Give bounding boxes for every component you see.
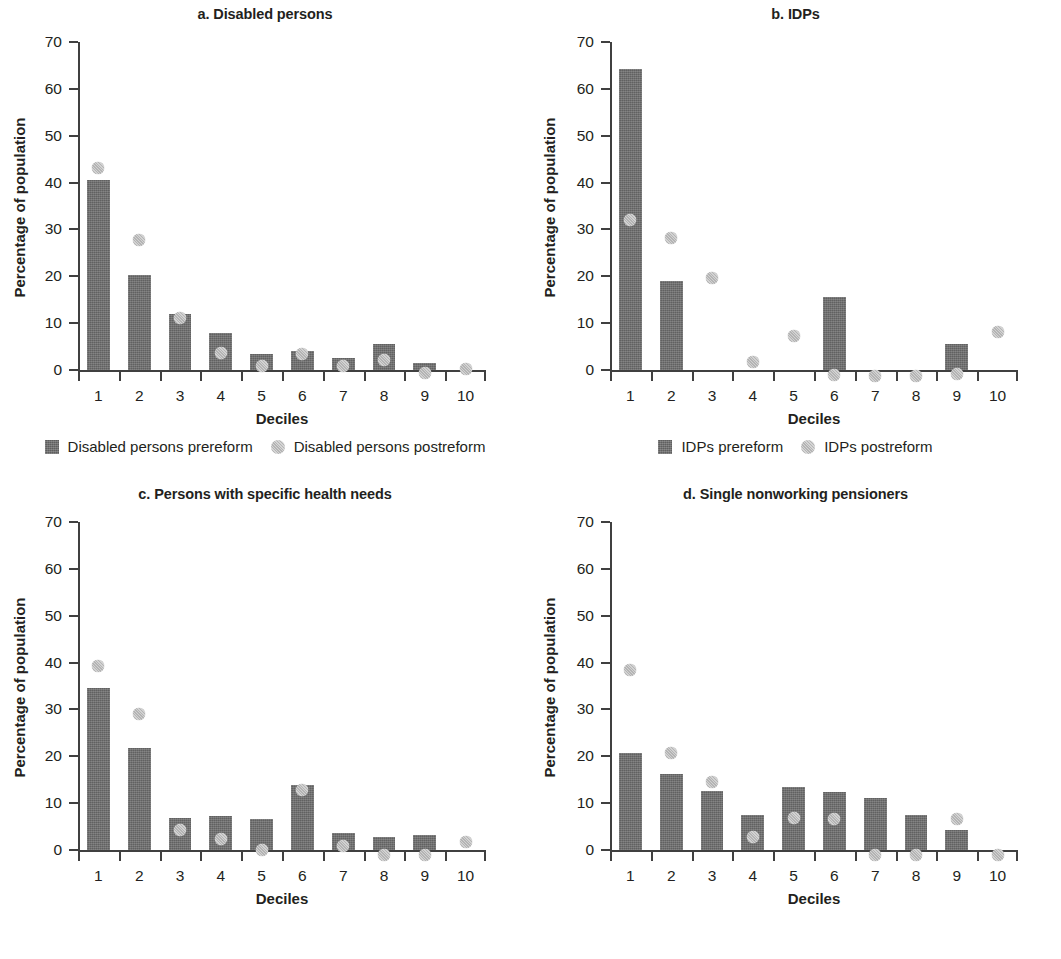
x-axis-tick <box>814 372 816 381</box>
y-axis-tick: 10 <box>69 322 78 324</box>
y-axis-tick: 0 <box>69 369 78 371</box>
y-axis-tick: 30 <box>601 708 610 710</box>
y-axis-line <box>610 42 612 372</box>
y-axis-tick: 20 <box>69 275 78 277</box>
x-axis-tick <box>364 372 366 381</box>
bar-swatch-icon <box>45 440 59 454</box>
y-axis-tick: 30 <box>69 708 78 710</box>
x-axis-tick <box>484 372 486 381</box>
y-axis-tick-label: 40 <box>577 654 594 672</box>
y-axis-tick-label: 40 <box>45 174 62 192</box>
x-axis-tick <box>364 852 366 861</box>
x-axis-tick <box>977 372 979 381</box>
x-axis-tick <box>1016 852 1018 861</box>
panel-b-x-axis-label: Deciles <box>610 410 1018 427</box>
y-axis-tick-label: 0 <box>53 361 62 379</box>
data-point-marker <box>869 369 882 382</box>
panel-b-legend: IDPs prereform IDPs postreform <box>530 438 1061 455</box>
y-axis-tick: 20 <box>601 275 610 277</box>
y-axis-tick-label: 40 <box>577 174 594 192</box>
x-axis-tick <box>160 852 162 861</box>
y-axis-line <box>78 42 80 372</box>
y-axis-tick-label: 60 <box>45 560 62 578</box>
y-axis-tick-label: 70 <box>45 33 62 51</box>
panel-c-title: c. Persons with specific health needs <box>0 486 530 502</box>
x-axis-tick-label: 7 <box>871 387 880 405</box>
y-axis-tick-label: 10 <box>577 314 594 332</box>
legend-label: IDPs postreform <box>824 438 932 455</box>
data-point-marker <box>92 162 105 175</box>
x-axis-tick-label: 4 <box>216 387 225 405</box>
x-axis-tick-label: 8 <box>380 867 389 885</box>
legend-item-prereform: Disabled persons prereform <box>45 438 253 455</box>
data-point-marker <box>459 363 472 376</box>
y-axis-tick-label: 60 <box>45 80 62 98</box>
data-point-marker <box>255 844 268 857</box>
y-axis-tick-label: 0 <box>585 361 594 379</box>
x-axis-tick <box>977 852 979 861</box>
data-point-marker <box>337 839 350 852</box>
panel-a-plot-area: 01020304050607012345678910 <box>78 42 486 372</box>
x-axis-tick <box>160 372 162 381</box>
y-axis-tick-label: 50 <box>577 127 594 145</box>
y-axis-tick: 50 <box>69 135 78 137</box>
x-axis-tick-label: 10 <box>989 387 1006 405</box>
y-axis-tick: 60 <box>601 568 610 570</box>
y-axis-line <box>78 522 80 852</box>
data-point-marker <box>910 369 923 382</box>
x-axis-tick-label: 2 <box>667 867 676 885</box>
x-axis-tick-label: 4 <box>216 867 225 885</box>
bar <box>660 281 683 370</box>
y-axis-tick-label: 60 <box>577 560 594 578</box>
x-axis-tick-label: 1 <box>94 867 103 885</box>
data-point-marker <box>706 271 719 284</box>
x-axis-tick-label: 8 <box>380 387 389 405</box>
x-axis-tick-label: 2 <box>135 387 144 405</box>
y-axis-tick: 60 <box>69 568 78 570</box>
y-axis-tick: 50 <box>601 615 610 617</box>
data-point-marker <box>787 811 800 824</box>
y-axis-tick: 30 <box>601 228 610 230</box>
x-axis-tick-label: 9 <box>952 387 961 405</box>
panel-c-x-axis-label: Deciles <box>78 890 486 907</box>
x-axis-tick <box>936 852 938 861</box>
panel-d-title: d. Single nonworking pensioners <box>530 486 1061 502</box>
x-axis-tick-label: 2 <box>667 387 676 405</box>
y-axis-tick: 50 <box>69 615 78 617</box>
data-point-marker <box>296 784 309 797</box>
x-axis-tick-label: 5 <box>789 387 798 405</box>
x-axis-tick <box>936 372 938 381</box>
y-axis-tick-label: 0 <box>53 841 62 859</box>
data-point-marker <box>214 833 227 846</box>
x-axis-tick-label: 9 <box>952 867 961 885</box>
y-axis-tick-label: 50 <box>45 607 62 625</box>
panel-d-plot-area: 01020304050607012345678910 <box>610 522 1018 852</box>
x-axis-tick-label: 5 <box>789 867 798 885</box>
panel-b-y-axis-label: Percentage of population <box>538 42 560 372</box>
bar <box>945 344 968 370</box>
legend-item-postreform: IDPs postreform <box>801 438 932 455</box>
panel-b-plot-area: 01020304050607012345678910 <box>610 42 1018 372</box>
data-point-marker <box>133 708 146 721</box>
y-axis-tick-label: 10 <box>45 314 62 332</box>
x-axis-tick-label: 8 <box>912 867 921 885</box>
y-axis-tick: 30 <box>69 228 78 230</box>
data-point-marker <box>828 813 841 826</box>
x-axis-tick-label: 6 <box>298 867 307 885</box>
y-axis-tick-label: 60 <box>577 80 594 98</box>
data-point-marker <box>665 232 678 245</box>
x-axis-tick <box>651 372 653 381</box>
y-axis-tick-label: 40 <box>45 654 62 672</box>
x-axis-tick-label: 3 <box>176 387 185 405</box>
legend-item-prereform: IDPs prereform <box>658 438 783 455</box>
x-axis-tick <box>896 372 898 381</box>
data-point-marker <box>746 356 759 369</box>
y-axis-tick: 0 <box>69 849 78 851</box>
panel-a-disabled-persons: a. Disabled persons Percentage of popula… <box>0 0 530 480</box>
data-point-marker <box>418 366 431 379</box>
y-axis-tick-label: 0 <box>585 841 594 859</box>
x-axis-tick <box>241 852 243 861</box>
y-axis-line <box>610 522 612 852</box>
y-axis-tick: 60 <box>601 88 610 90</box>
y-axis-tick: 10 <box>69 802 78 804</box>
